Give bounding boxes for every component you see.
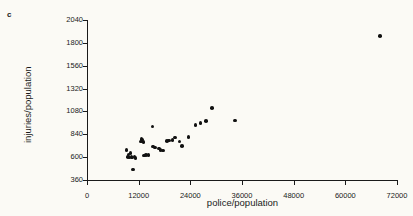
y-tick-label: 2040 xyxy=(66,16,83,24)
scatter-point xyxy=(161,149,165,153)
y-tick-mark xyxy=(83,134,88,135)
y-tick-label: 1800 xyxy=(66,39,83,47)
y-tick-label: 840 xyxy=(70,130,83,138)
plot-area xyxy=(87,20,397,180)
y-tick-label: 360 xyxy=(70,176,83,184)
scatter-point xyxy=(147,153,151,157)
x-axis-title: police/population xyxy=(87,198,398,208)
x-axis-tick-labels: 0120002400036000480006000072000 xyxy=(87,185,398,197)
y-tick-mark xyxy=(83,157,88,158)
y-tick-mark xyxy=(83,43,88,44)
y-tick-mark xyxy=(83,66,88,67)
scatter-point xyxy=(194,123,198,127)
scatter-point xyxy=(378,34,382,38)
y-tick-mark xyxy=(83,20,88,21)
y-tick-label: 600 xyxy=(70,153,83,161)
scatter-point xyxy=(129,151,133,155)
y-tick-label: 1560 xyxy=(66,62,83,70)
scatter-point xyxy=(178,140,182,144)
y-tick-mark xyxy=(83,89,88,90)
y-axis-tick-labels: 36060084010801320156018002040 xyxy=(52,20,83,180)
scatter-point xyxy=(134,156,138,160)
scatter-point xyxy=(199,121,203,125)
y-tick-mark xyxy=(83,111,88,112)
scatter-point xyxy=(173,136,177,140)
y-axis-title: injuries/population xyxy=(23,25,33,185)
scatter-point xyxy=(142,140,146,144)
scatter-point xyxy=(204,119,208,123)
scatter-point xyxy=(187,135,191,139)
scatter-point xyxy=(233,119,237,123)
y-tick-label: 1320 xyxy=(66,85,83,93)
figure-panel-c: c injuries/population 360600840108013201… xyxy=(0,0,413,216)
scatter-point xyxy=(151,125,155,129)
panel-label: c xyxy=(7,11,11,19)
scatter-point xyxy=(180,144,184,148)
y-axis-line xyxy=(87,20,88,180)
y-tick-label: 1080 xyxy=(66,107,83,115)
scatter-point xyxy=(210,106,214,110)
scatter-point xyxy=(131,168,135,172)
scatter-point xyxy=(125,148,129,152)
